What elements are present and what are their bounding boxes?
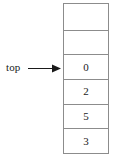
top-pointer: top (6, 60, 62, 78)
stack-cell-4: 5 (64, 105, 108, 130)
arrow-right-icon (28, 61, 62, 75)
stack-cell-value: 0 (83, 62, 89, 73)
stack-container: 0 2 5 3 (63, 3, 109, 154)
stack-cell-top: 0 (64, 55, 108, 80)
stack-cell-bottom: 3 (64, 129, 108, 153)
stack-diagram: top 0 2 5 3 (0, 0, 114, 161)
stack-cell-value: 5 (83, 111, 89, 122)
top-pointer-label: top (6, 60, 20, 74)
stack-cell-value: 2 (83, 86, 89, 97)
stack-cell-empty-0 (64, 4, 108, 31)
stack-cell-value: 3 (83, 136, 89, 147)
stack-cell-empty-1 (64, 31, 108, 56)
stack-cell-3: 2 (64, 80, 108, 105)
